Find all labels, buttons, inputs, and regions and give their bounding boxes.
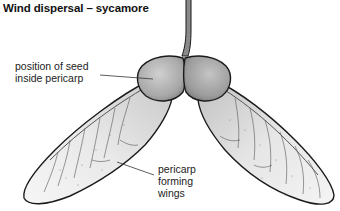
- pericarp-wings-label: pericarp forming wings: [158, 163, 196, 199]
- stem: [182, 0, 191, 56]
- seed-position-label-line-1: position of seed: [15, 60, 89, 72]
- seed-position-label-line-2: inside pericarp: [15, 72, 89, 84]
- wing-leader-line: [117, 162, 154, 175]
- pericarp-wings-label-line-1: pericarp: [158, 163, 196, 175]
- pericarp-wings-label-line-3: wings: [158, 187, 196, 199]
- seed-position-label: position of seed inside pericarp: [15, 60, 89, 84]
- pericarp-wings-label-line-2: forming: [158, 175, 196, 187]
